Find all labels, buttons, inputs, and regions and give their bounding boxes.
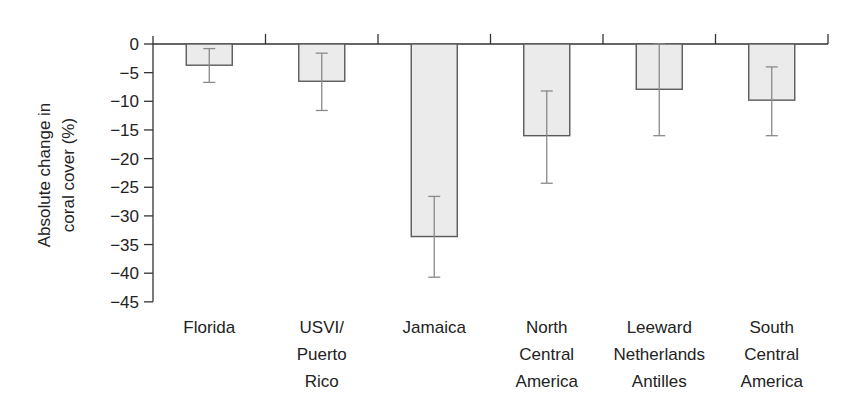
x-tick-label-line: Jamaica xyxy=(403,318,467,337)
y-tick-label: −10 xyxy=(110,92,139,111)
x-tick-label-line: Rico xyxy=(305,372,339,391)
x-tick-label-line: Central xyxy=(519,345,574,364)
y-tick-label: −40 xyxy=(110,264,139,283)
x-tick-label-line: Leeward xyxy=(627,318,692,337)
x-axis xyxy=(153,34,828,44)
x-tick-label-line: Netherlands xyxy=(613,345,705,364)
x-tick-label: NorthCentralAmerica xyxy=(516,318,579,391)
x-tick-label-line: America xyxy=(516,372,579,391)
y-axis-title-line: coral cover (%) xyxy=(59,118,78,232)
x-tick-label: SouthCentralAmerica xyxy=(741,318,804,391)
x-tick-label: USVI/PuertoRico xyxy=(297,318,347,391)
y-tick-label: −15 xyxy=(110,121,139,140)
x-tick-label-line: America xyxy=(741,372,804,391)
x-tick-label-line: Antilles xyxy=(632,372,687,391)
y-tick-label: −5 xyxy=(120,64,139,83)
x-tick-label-line: North xyxy=(526,318,568,337)
y-axis-title-line: Absolute change in xyxy=(35,103,54,248)
x-tick-label-line: South xyxy=(750,318,794,337)
y-tick-label: −20 xyxy=(110,150,139,169)
y-tick-label: −25 xyxy=(110,178,139,197)
y-tick-label: 0 xyxy=(130,35,139,54)
y-tick-label: −35 xyxy=(110,236,139,255)
y-axis: 0−5−10−15−20−25−30−35−40−45 xyxy=(110,35,153,312)
x-tick-label-line: Central xyxy=(744,345,799,364)
x-tick-label-line: USVI/ xyxy=(300,318,345,337)
x-tick-labels: FloridaUSVI/PuertoRicoJamaicaNorthCentra… xyxy=(183,318,803,391)
y-tick-label: −30 xyxy=(110,207,139,226)
x-tick-label: Jamaica xyxy=(403,318,467,337)
y-tick-label: −45 xyxy=(110,293,139,312)
bars xyxy=(186,44,795,237)
x-tick-label: Florida xyxy=(183,318,236,337)
bar-chart: 0−5−10−15−20−25−30−35−40−45 FloridaUSVI/… xyxy=(0,0,861,420)
x-tick-label-line: Puerto xyxy=(297,345,347,364)
x-tick-label-line: Florida xyxy=(183,318,236,337)
error-bars xyxy=(203,44,778,277)
y-axis-title: Absolute change incoral cover (%) xyxy=(35,103,78,248)
x-tick-label: LeewardNetherlandsAntilles xyxy=(613,318,705,391)
